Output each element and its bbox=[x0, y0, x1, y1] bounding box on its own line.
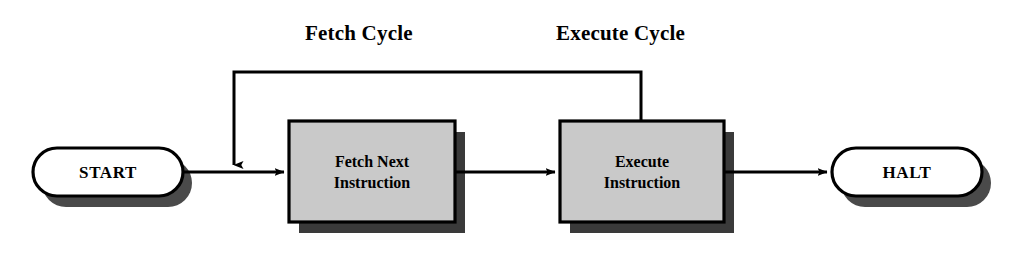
execute-box-label-line2: Instruction bbox=[604, 174, 681, 191]
start-terminator: START bbox=[33, 148, 192, 207]
fetch-box-shape bbox=[289, 121, 455, 222]
start-label: START bbox=[79, 163, 137, 182]
halt-label: HALT bbox=[882, 163, 931, 182]
execute-instruction-box: Execute Instruction bbox=[560, 121, 734, 233]
execute-cycle-label: Execute Cycle bbox=[556, 21, 685, 45]
fetch-next-instruction-box: Fetch Next Instruction bbox=[289, 121, 465, 233]
fetch-box-label-line2: Instruction bbox=[334, 174, 411, 191]
flowchart-canvas: Fetch Cycle Execute Cycle START Fetch Ne… bbox=[0, 0, 1018, 255]
halt-terminator: HALT bbox=[832, 148, 991, 207]
fetch-cycle-label: Fetch Cycle bbox=[305, 21, 413, 45]
fetch-box-label-line1: Fetch Next bbox=[335, 153, 410, 170]
instruction-cycle-diagram: Fetch Cycle Execute Cycle START Fetch Ne… bbox=[0, 0, 1018, 255]
execute-box-label-line1: Execute bbox=[615, 153, 669, 170]
execute-box-shape bbox=[560, 121, 724, 222]
